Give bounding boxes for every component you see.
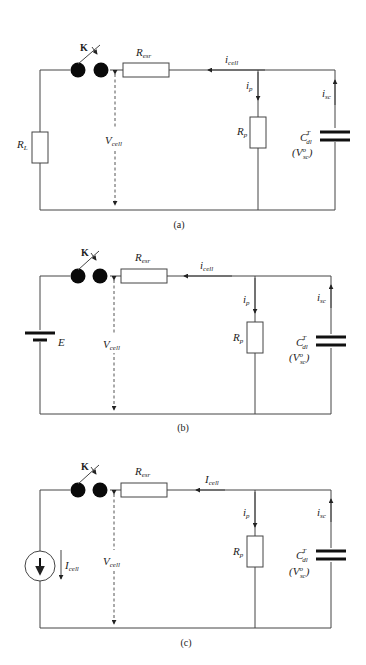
load-resistor [32,132,48,163]
panel-caption: (a) [173,219,184,231]
isc-label: isc [317,506,327,520]
switch-contact-left [71,483,86,498]
icell-label: icell [200,259,213,273]
switch-contact-right [93,269,108,284]
rl-label: RL [16,138,28,152]
switch-contact-left [71,63,86,78]
esr-resistor [121,483,167,497]
source-current-label: Icell [64,559,79,573]
battery-label: E [57,336,65,348]
resr-label: Resr [134,251,151,265]
rp-label: Rp [236,125,248,139]
rp-resistor [247,536,263,567]
circuit-panel-a: K RL Resr icell ip isc Rp Vcell CTdl (Vo… [16,42,350,231]
capacitor-label: CTdl [300,129,312,146]
icell-label: Icell [204,473,219,487]
circuit-panel-c: K Icell Resr Icell ip isc Rp Vcell CTdl … [25,461,347,649]
resr-label: Resr [134,465,151,479]
rp-resistor [247,322,263,353]
switch-contact-right [93,483,108,498]
circuit-panel-b: K E Resr icell ip isc Rp Vcell CTdl (Vos… [22,247,347,434]
esr-resistor [121,269,167,283]
switch-label: K [81,247,89,258]
isc-label: isc [322,87,332,101]
wire-loop [40,70,335,210]
switch-contact-left [71,269,86,284]
rp-label: Rp [232,331,244,345]
ip-label: ip [246,79,253,93]
isc-label: isc [317,291,327,305]
circuit-figure: K RL Resr icell ip isc Rp Vcell CTdl (Vo… [0,0,366,665]
ip-label: ip [243,293,250,307]
ip-label: ip [243,506,250,520]
wire-loop [40,276,331,414]
wire-loop [40,490,331,628]
capacitor-voltage-label: (Vosc) [289,565,310,580]
switch-label: K [80,42,88,53]
esr-resistor [123,63,169,77]
rp-label: Rp [232,545,244,559]
resr-label: Resr [135,46,152,60]
capacitor-label: CTdl [296,547,308,564]
panel-caption: (b) [177,422,189,434]
panel-caption: (c) [180,637,191,649]
capacitor-label: CTdl [296,334,308,351]
capacitor-voltage-label: (Vosc) [292,146,313,161]
switch-contact-right [94,63,109,78]
switch-label: K [81,461,89,472]
rp-resistor [250,117,266,148]
icell-label: icell [225,53,238,67]
capacitor-voltage-label: (Vosc) [289,351,310,366]
